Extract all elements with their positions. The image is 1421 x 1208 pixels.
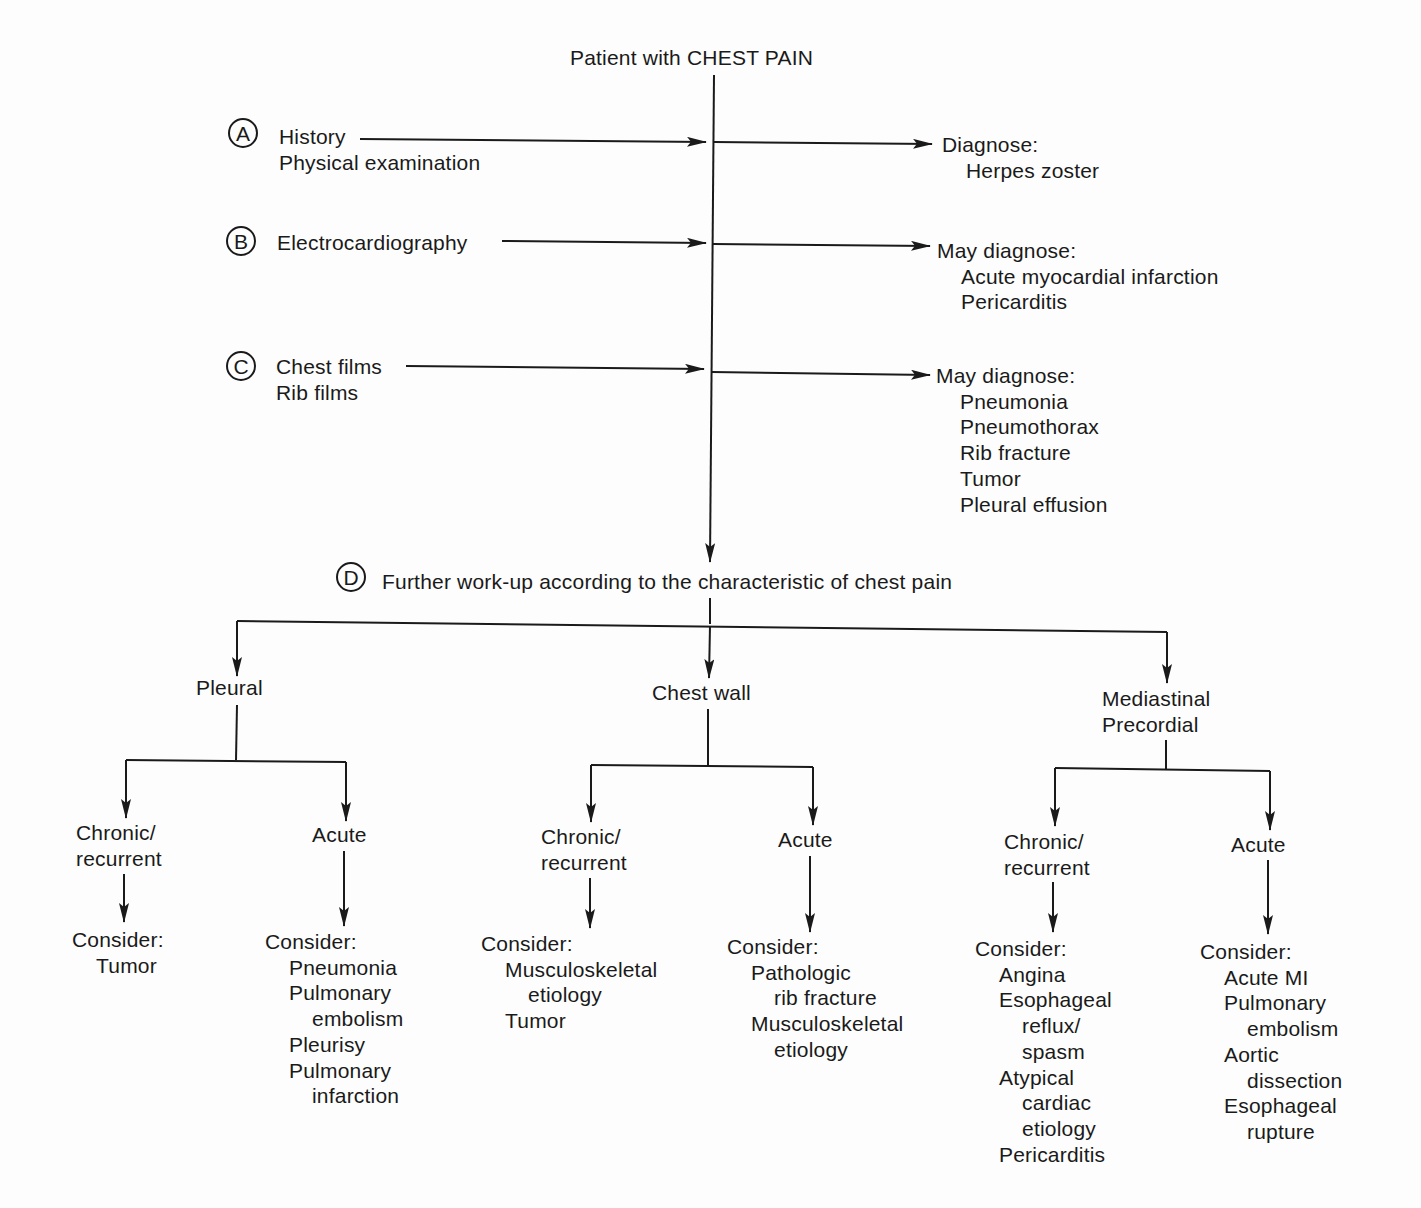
outcome-item: Herpes zoster (942, 158, 1099, 184)
films-arrow (406, 366, 704, 369)
consider-label: Consider: (975, 936, 1112, 962)
diagnose-a-arrow (714, 142, 932, 144)
consider-item: Pulmonary (1200, 990, 1342, 1016)
consider-item: Tumor (481, 1008, 657, 1034)
branch-label-line: Mediastinal (1102, 686, 1210, 712)
step-c-outcomes: May diagnose: Pneumonia Pneumothorax Rib… (936, 363, 1108, 517)
step-a-input: Physical examination (279, 150, 480, 176)
consider-item: Tumor (72, 953, 164, 979)
consider-label: Consider: (727, 934, 903, 960)
consider-item: Angina (975, 962, 1112, 988)
mediastinal-acute-consider: Consider: Acute MI Pulmonary embolism Ao… (1200, 939, 1342, 1145)
consider-item: Aortic (1200, 1042, 1342, 1068)
outcome-item: Tumor (936, 466, 1108, 492)
step-a-outcomes: Diagnose: Herpes zoster (942, 132, 1099, 183)
consider-label: Consider: (1200, 939, 1342, 965)
branch-chest-wall-label: Chest wall (652, 680, 751, 706)
branch-mediastinal-label: Mediastinal Precordial (1102, 686, 1210, 737)
consider-item: embolism (265, 1006, 403, 1032)
step-a-marker-icon: A (228, 118, 258, 148)
consider-item: Atypical (975, 1065, 1112, 1091)
chest-wall-chronic-consider: Consider: Musculoskeletal etiology Tumor (481, 931, 657, 1034)
outcome-item: Pneumothorax (936, 414, 1108, 440)
outcome-label: May diagnose: (937, 238, 1219, 264)
consider-item: Pathologic (727, 960, 903, 986)
consider-label: Consider: (265, 929, 403, 955)
consider-item: reflux/ (975, 1013, 1112, 1039)
step-c-input: Chest films (276, 354, 382, 380)
consider-item: Musculoskeletal (727, 1011, 903, 1037)
pleural-chronic-consider: Consider: Tumor (72, 927, 164, 978)
step-a-input: History (279, 124, 480, 150)
outcome-label: May diagnose: (936, 363, 1108, 389)
consider-item: cardiac (975, 1090, 1112, 1116)
step-c-marker-icon: C (226, 351, 256, 381)
mediastinal-chronic-label: Chronic/ recurrent (1004, 829, 1090, 880)
main-trunk-arrow (710, 75, 714, 562)
diagnose-c-arrow (712, 372, 930, 375)
consider-item: etiology (481, 982, 657, 1008)
chronic-label-line: recurrent (1004, 855, 1090, 881)
consider-item: Pneumonia (265, 955, 403, 981)
chest-wall-acute-consider: Consider: Pathologic rib fracture Muscul… (727, 934, 903, 1063)
outcome-item: Acute myocardial infarction (937, 264, 1219, 290)
step-c-input: Rib films (276, 380, 382, 406)
chronic-label-line: recurrent (541, 850, 627, 876)
step-b-outcomes: May diagnose: Acute myocardial infarctio… (937, 238, 1219, 315)
pleural-acute-label: Acute (312, 822, 367, 848)
step-b-marker-icon: B (226, 226, 256, 256)
consider-item: etiology (727, 1037, 903, 1063)
consider-item: dissection (1200, 1068, 1342, 1094)
step-c-inputs: Chest films Rib films (276, 354, 382, 405)
outcome-item: Rib fracture (936, 440, 1108, 466)
chronic-label-line: recurrent (76, 846, 162, 872)
consider-item: Esophageal (1200, 1093, 1342, 1119)
step-a-inputs: History Physical examination (279, 124, 480, 175)
consider-item: infarction (265, 1083, 403, 1109)
consider-item: Pulmonary (265, 1058, 403, 1084)
chronic-label-line: Chronic/ (1004, 829, 1090, 855)
consider-item: Pulmonary (265, 980, 403, 1006)
branch-label-line: Precordial (1102, 712, 1210, 738)
consider-label: Consider: (72, 927, 164, 953)
chest-wall-chronic-label: Chronic/ recurrent (541, 824, 627, 875)
branch-pleural-label: Pleural (196, 675, 263, 701)
pleural-chronic-label: Chronic/ recurrent (76, 820, 162, 871)
consider-item: rib fracture (727, 985, 903, 1011)
mediastinal-acute-label: Acute (1231, 832, 1286, 858)
flowchart-title: Patient with CHEST PAIN (570, 45, 813, 71)
consider-item: Acute MI (1200, 965, 1342, 991)
step-d-label: Further work-up according to the charact… (382, 569, 952, 595)
step-d-marker-icon: D (336, 562, 366, 592)
outcome-item: Pleural effusion (936, 492, 1108, 518)
step-b-input: Electrocardiography (277, 230, 468, 256)
consider-item: spasm (975, 1039, 1112, 1065)
chronic-label-line: Chronic/ (76, 820, 162, 846)
consider-item: Pleurisy (265, 1032, 403, 1058)
outcome-item: Pneumonia (936, 389, 1108, 415)
diagnose-b-arrow (713, 244, 930, 246)
consider-item: embolism (1200, 1016, 1342, 1042)
consider-item: etiology (975, 1116, 1112, 1142)
chronic-label-line: Chronic/ (541, 824, 627, 850)
chest-pain-flowchart: Patient with CHEST PAIN A History Physic… (0, 0, 1421, 1208)
consider-item: Pericarditis (975, 1142, 1112, 1168)
ecg-arrow (502, 241, 706, 243)
consider-item: Esophageal (975, 987, 1112, 1013)
consider-item: rupture (1200, 1119, 1342, 1145)
consider-item: Musculoskeletal (481, 957, 657, 983)
outcome-label: Diagnose: (942, 132, 1099, 158)
chest-wall-acute-label: Acute (778, 827, 833, 853)
consider-label: Consider: (481, 931, 657, 957)
mediastinal-chronic-consider: Consider: Angina Esophageal reflux/ spas… (975, 936, 1112, 1167)
step-b-inputs: Electrocardiography (277, 230, 468, 256)
pleural-acute-consider: Consider: Pneumonia Pulmonary embolism P… (265, 929, 403, 1109)
outcome-item: Pericarditis (937, 289, 1219, 315)
